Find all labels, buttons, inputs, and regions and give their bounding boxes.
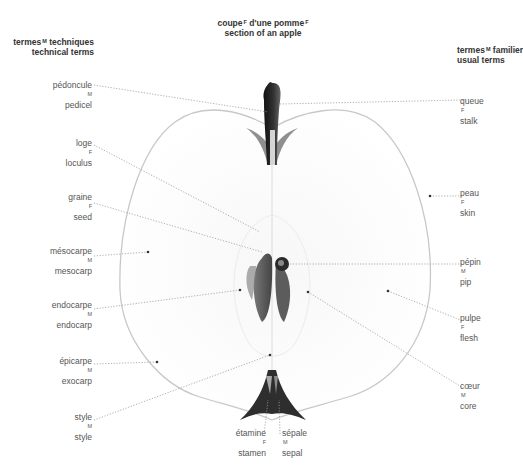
label-sepal: sépaleM sepal [282, 428, 324, 458]
label-endocarp: endocarpeM endocarp [20, 300, 92, 330]
label-loculus: logeF loculus [20, 138, 92, 168]
label-mesocarp: mésocarpeM mesocarp [20, 246, 92, 276]
label-skin: peauF skin [460, 188, 520, 218]
label-style: styleM style [20, 412, 92, 442]
header-usual-terms: termesM familiers usual terms [457, 45, 523, 65]
diagram-title: coupeF d'une pommeF section of an apple [212, 18, 314, 38]
label-pip: pépinM pip [460, 257, 520, 287]
label-core: cœurM core [460, 381, 520, 411]
label-stalk: queueF stalk [460, 96, 520, 126]
label-pedicel: pédonculeM pedicel [20, 80, 92, 110]
header-technical-terms: termesM techniques technical terms [10, 37, 94, 57]
label-seed: graineF seed [20, 192, 92, 222]
apple-section-diagram: coupeF d'une pommeF section of an apple … [0, 0, 523, 466]
label-flesh: pulpeF flesh [460, 313, 520, 343]
label-exocarp: épicarpeM exocarp [20, 356, 92, 386]
label-stamen: étamineF stamen [224, 428, 266, 458]
apple-illustration [0, 0, 523, 466]
